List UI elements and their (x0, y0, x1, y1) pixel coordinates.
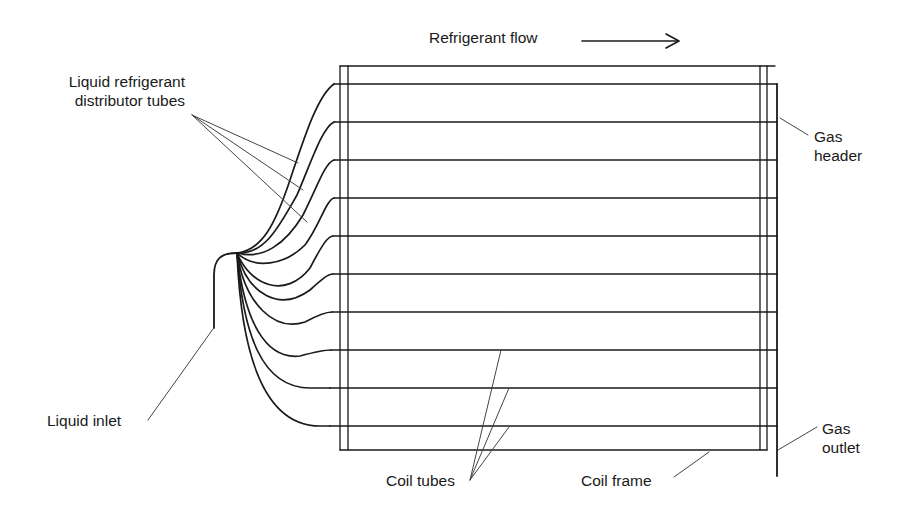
refrigerant-flow-label: Refrigerant flow (429, 28, 538, 47)
flow-arrow-icon (582, 34, 679, 48)
distributor-label-line2: distributor tubes (38, 91, 185, 110)
coil-tubes (330, 84, 777, 426)
liquid-inlet-label: Liquid inlet (47, 411, 121, 430)
coil-frame (340, 66, 775, 450)
distributor-label-line1: Liquid refrigerant (38, 72, 185, 91)
gas-outlet-label-line2: outlet (822, 438, 860, 457)
coil-frame-label: Coil frame (581, 471, 652, 490)
distributor-tubes-label: Liquid refrigerant distributor tubes (38, 72, 185, 110)
gas-outlet-label: Gas outlet (822, 419, 860, 457)
gas-header-label-line2: header (814, 146, 862, 165)
gas-outlet-label-line1: Gas (822, 419, 860, 438)
distributor-tubes (237, 84, 334, 426)
liquid-inlet-pipe (214, 253, 237, 328)
gas-header-label: Gas header (814, 127, 862, 165)
coil-tubes-label: Coil tubes (386, 471, 455, 490)
gas-header-label-line1: Gas (814, 127, 862, 146)
